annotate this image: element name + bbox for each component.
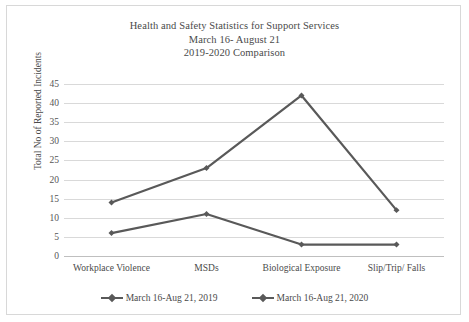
legend-swatch xyxy=(252,294,274,303)
y-axis-tick-label: 0 xyxy=(15,251,59,261)
y-axis-tick-label: 5 xyxy=(15,232,59,242)
y-axis-tick-label: 15 xyxy=(15,194,59,204)
chart-title: Health and Safety Statistics for Support… xyxy=(7,19,462,60)
x-axis-tick-label: Slip/Trip/ Falls xyxy=(368,263,425,273)
y-axis-tick-label: 35 xyxy=(15,117,59,127)
chart-title-line-1: Health and Safety Statistics for Support… xyxy=(7,19,462,33)
x-axis-tick-label: Workplace Violence xyxy=(73,263,150,273)
y-axis-tick-label: 30 xyxy=(15,136,59,146)
legend-label: March 16-Aug 21, 2019 xyxy=(126,293,218,303)
y-axis-tick-label: 45 xyxy=(15,79,59,89)
y-axis-tick-label: 10 xyxy=(15,213,59,223)
x-axis-tick-label: Biological Exposure xyxy=(263,263,341,273)
data-point-marker xyxy=(299,242,305,248)
chart-legend: March 16-Aug 21, 2019March 16-Aug 21, 20… xyxy=(7,293,462,303)
legend-label: March 16-Aug 21, 2020 xyxy=(277,293,369,303)
legend-entry[interactable]: March 16-Aug 21, 2020 xyxy=(252,293,369,303)
chart-series-layer xyxy=(64,84,444,256)
y-axis-tick-label: 20 xyxy=(15,175,59,185)
data-point-marker xyxy=(394,242,400,248)
x-axis-tick-labels: Workplace ViolenceMSDsBiological Exposur… xyxy=(64,263,444,279)
y-axis-tick-label: 40 xyxy=(15,98,59,108)
chart-title-line-3: 2019-2020 Comparison xyxy=(7,46,462,60)
x-axis-line xyxy=(64,256,444,257)
data-point-marker xyxy=(109,200,115,206)
series-line xyxy=(112,214,397,245)
chart-title-line-2: March 16- August 21 xyxy=(7,33,462,47)
y-axis-tick-labels: 051015202530354045 xyxy=(13,84,59,256)
series-line xyxy=(112,95,397,210)
legend-entry[interactable]: March 16-Aug 21, 2019 xyxy=(101,293,218,303)
chart-frame: Health and Safety Statistics for Support… xyxy=(6,5,461,315)
legend-swatch xyxy=(101,294,123,303)
data-point-marker xyxy=(109,230,115,236)
x-axis-tick-label: MSDs xyxy=(194,263,218,273)
y-axis-tick-label: 25 xyxy=(15,155,59,165)
data-point-marker xyxy=(204,211,210,217)
